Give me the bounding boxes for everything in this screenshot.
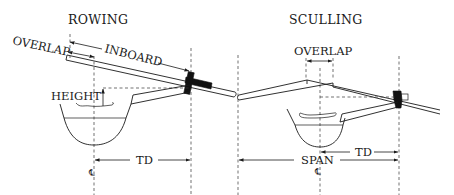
sculling-title: SCULLING [289, 12, 363, 27]
rigging-diagram: ROWING OVERLAP INBOARD HEIGHT [0, 0, 454, 195]
sculling-rigger-top [342, 102, 398, 114]
height-label: HEIGHT [51, 89, 101, 103]
sculling-rigger-bottom [340, 107, 398, 122]
sculling-seat [299, 113, 336, 118]
span-label: SPAN [301, 153, 334, 167]
rowing-rigger-post [131, 95, 133, 104]
inboard-arrow-left [70, 42, 102, 49]
rowing-hull [60, 104, 131, 145]
sculling-td-label: TD [355, 145, 372, 159]
sculling-section: SCULLING OVERLAP [238, 12, 441, 195]
rowing-td-label: TD [136, 153, 153, 167]
rowing-overlap-label: OVERLAP [11, 33, 71, 59]
sculling-overlap-label: OVERLAP [294, 44, 353, 58]
rowing-seat [76, 103, 114, 107]
inboard-arrow-right [158, 63, 189, 71]
sculling-centerline-symbol: ℄ [314, 167, 321, 177]
rowing-title: ROWING [68, 12, 128, 27]
rowing-section: ROWING OVERLAP INBOARD HEIGHT [11, 12, 236, 195]
rowing-centerline-symbol: ℄ [88, 168, 95, 178]
sculling-rigger-post [340, 114, 342, 122]
